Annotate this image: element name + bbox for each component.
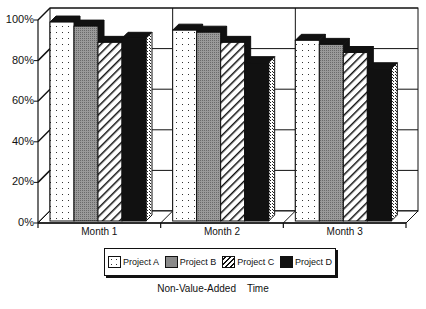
legend-item-project-b: Project B [165,256,217,268]
bar [122,32,152,221]
y-tick-label: 60% [0,94,34,106]
bar [367,63,397,221]
y-tick-label: 40% [0,135,34,147]
gray-swatch-icon [165,256,178,268]
hatch-swatch-icon [222,256,235,268]
bar [245,57,275,221]
bar-chart-plot [0,0,426,245]
chart-title: Non-Value-Added Time [0,283,426,294]
legend: Project A Project B Project C Project D [104,248,336,276]
y-tick-label: 20% [0,175,34,187]
legend-item-project-c: Project C [222,256,274,268]
x-tick-label: Month 3 [285,226,405,237]
y-tick-label: 80% [0,54,34,66]
black-swatch-icon [280,256,293,268]
y-tick-label: 100% [0,13,34,25]
dots-swatch-icon [108,256,121,268]
legend-item-project-a: Project A [108,256,159,268]
x-tick-label: Month 2 [162,226,282,237]
x-tick-label: Month 1 [39,226,159,237]
y-tick-label: 0% [0,216,34,228]
legend-item-project-d: Project D [280,256,332,268]
